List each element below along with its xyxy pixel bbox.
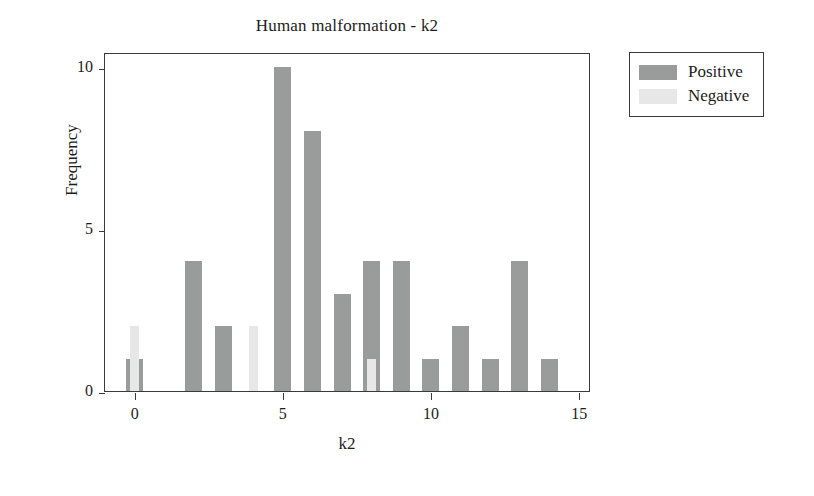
bar-positive-10 xyxy=(422,359,439,391)
legend-item-positive[interactable]: Positive xyxy=(639,60,749,84)
y-tick-label: 10 xyxy=(53,58,93,76)
plot-area xyxy=(105,54,589,391)
x-tick-label: 0 xyxy=(115,405,155,423)
bar-positive-6 xyxy=(304,131,321,391)
legend-swatch-positive-icon xyxy=(639,65,677,80)
plot-frame: 0510 051015 xyxy=(104,53,590,392)
x-tick-mark xyxy=(283,393,284,400)
bar-positive-12 xyxy=(482,359,499,391)
x-axis-label: k2 xyxy=(104,434,590,454)
legend-swatch-negative-icon xyxy=(639,89,677,104)
chart-title: Human malformation - k2 xyxy=(104,16,590,36)
x-tick-mark xyxy=(135,393,136,400)
y-tick-label: 0 xyxy=(53,382,93,400)
x-tick-mark xyxy=(431,393,432,400)
bar-positive-9 xyxy=(393,261,410,391)
bar-positive-14 xyxy=(541,359,558,391)
bar-positive-5 xyxy=(274,67,291,391)
y-tick-mark xyxy=(99,231,105,232)
y-axis-label: Frequency xyxy=(62,80,82,240)
bar-positive-3 xyxy=(215,326,232,391)
bar-negative-8 xyxy=(367,359,376,391)
legend-label: Negative xyxy=(688,86,749,106)
x-tick-label: 10 xyxy=(411,405,451,423)
bar-negative-4 xyxy=(249,326,258,391)
x-tick-label: 5 xyxy=(263,405,303,423)
bar-positive-11 xyxy=(452,326,469,391)
legend-item-negative[interactable]: Negative xyxy=(639,84,749,108)
chart-legend: PositiveNegative xyxy=(629,52,764,117)
x-tick-label: 15 xyxy=(559,405,599,423)
bar-positive-2 xyxy=(185,261,202,391)
bar-positive-7 xyxy=(334,294,351,391)
bar-positive-13 xyxy=(511,261,528,391)
x-tick-mark xyxy=(579,393,580,400)
y-tick-mark xyxy=(99,69,105,70)
chart-figure: Human malformation - k2 0510 051015 Freq… xyxy=(0,0,814,496)
legend-label: Positive xyxy=(688,62,743,82)
y-tick-mark xyxy=(99,393,105,394)
bar-negative-0 xyxy=(130,326,139,391)
